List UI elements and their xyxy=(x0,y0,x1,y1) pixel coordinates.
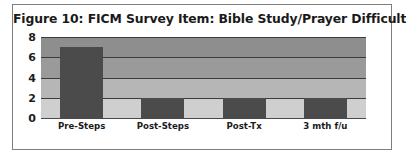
plot-area xyxy=(41,37,366,118)
x-tick-label: Pre-Steps xyxy=(58,121,105,131)
bar xyxy=(223,98,266,118)
figure-container: Figure 10: FICM Survey Item: Bible Study… xyxy=(0,0,406,161)
y-tick-label: 8 xyxy=(28,32,36,43)
y-tick-label: 2 xyxy=(28,92,36,103)
x-tick-label: Post-Tx xyxy=(227,121,262,131)
bar xyxy=(141,98,184,118)
y-tick-label: 0 xyxy=(28,113,36,124)
y-tick-label: 6 xyxy=(28,52,36,63)
plot-wrapper: 86420 Pre-StepsPost-StepsPost-Tx3 mth f/… xyxy=(10,37,370,129)
bar xyxy=(304,98,347,118)
x-tick-label: 3 mth f/u xyxy=(303,121,347,131)
y-tick-label: 4 xyxy=(28,72,36,83)
x-axis: Pre-StepsPost-StepsPost-Tx3 mth f/u xyxy=(41,121,366,137)
x-tick-label: Post-Steps xyxy=(137,121,189,131)
bar xyxy=(60,47,103,118)
chart-title: Figure 10: FICM Survey Item: Bible Study… xyxy=(13,11,373,26)
y-axis: 86420 xyxy=(10,37,40,119)
x-axis-baseline xyxy=(41,118,366,119)
gridline xyxy=(41,37,366,38)
